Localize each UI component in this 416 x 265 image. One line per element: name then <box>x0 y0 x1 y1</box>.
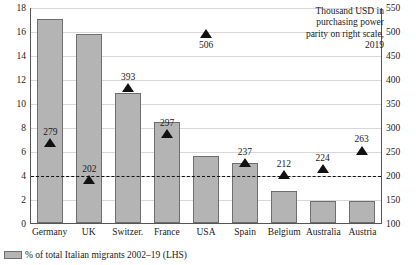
data-point-marker <box>122 83 134 92</box>
data-point-marker <box>317 164 329 173</box>
data-point-label: 279 <box>43 127 57 137</box>
data-point-marker <box>161 129 173 138</box>
x-axis-label: Austria <box>343 226 382 240</box>
x-axis-label: Australia <box>304 226 343 240</box>
chart-category-slot: 393 <box>109 8 148 223</box>
chart-root: 024681012141618 100150200250300350400450… <box>0 0 416 265</box>
annotation-text: Thousand USD in purchasing power parity … <box>296 6 384 52</box>
bar <box>37 19 63 223</box>
data-point-marker <box>239 158 251 167</box>
x-axis-label: Belgium <box>265 226 304 240</box>
bar <box>271 191 297 223</box>
chart-category-slot: 297 <box>148 8 187 223</box>
chart-category-slot: 506 <box>187 8 226 223</box>
right-axis-tick: 200 <box>386 171 416 181</box>
right-axis-tick: 500 <box>386 27 416 37</box>
data-point-label: 212 <box>277 159 291 169</box>
x-axis-label: Germany <box>30 226 69 240</box>
right-axis-tick: 350 <box>386 99 416 109</box>
bar <box>310 201 336 223</box>
x-axis-label: Spain <box>226 226 265 240</box>
right-axis-tick: 250 <box>386 147 416 157</box>
data-point-marker <box>200 29 212 38</box>
x-axis-label: France <box>147 226 186 240</box>
right-axis-tick: 100 <box>386 219 416 229</box>
data-point-label: 237 <box>238 147 252 157</box>
bar <box>232 163 258 223</box>
data-point-marker <box>356 146 368 155</box>
data-point-marker <box>278 170 290 179</box>
legend-label-bars: % of total Italian migrants 2002–19 (LHS… <box>25 249 187 261</box>
data-point-label: 297 <box>160 118 174 128</box>
x-axis-label: USA <box>186 226 225 240</box>
right-axis-tick: 550 <box>386 3 416 13</box>
right-axis-tick: 400 <box>386 75 416 85</box>
bar <box>193 156 219 223</box>
data-point-label: 393 <box>121 72 135 82</box>
right-axis-tick: 450 <box>386 51 416 61</box>
data-point-label: 224 <box>316 153 330 163</box>
right-axis-tick: 150 <box>386 195 416 205</box>
data-point-marker <box>44 138 56 147</box>
bar <box>76 34 102 223</box>
data-point-label: 263 <box>354 134 368 144</box>
right-axis-tick: 300 <box>386 123 416 133</box>
bar <box>115 93 141 223</box>
legend: % of total Italian migrants 2002–19 (LHS… <box>4 249 187 261</box>
data-point-label: 506 <box>199 40 213 50</box>
chart-category-slot: 237 <box>225 8 264 223</box>
chart-category-slot: 279 <box>31 8 70 223</box>
data-point-marker <box>83 175 95 184</box>
bar-swatch-icon <box>4 251 22 259</box>
x-axis-label: UK <box>69 226 108 240</box>
bar <box>349 201 375 223</box>
x-axis-labels: GermanyUKSwitzer.FranceUSASpainBelgiumAu… <box>30 226 382 240</box>
x-axis-label: Switzer. <box>108 226 147 240</box>
chart-category-slot: 202 <box>70 8 109 223</box>
data-point-label: 202 <box>82 164 96 174</box>
